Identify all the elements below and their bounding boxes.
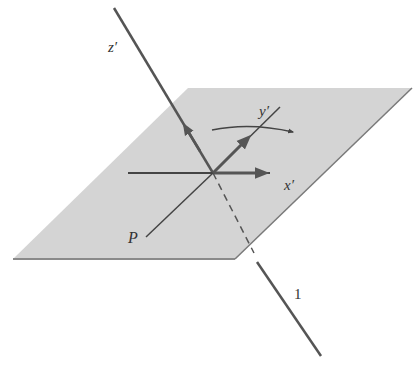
rotation-diagram: z′ y′ x′ P 1	[0, 0, 416, 378]
x-axis-label: x′	[283, 177, 295, 193]
line-1-label: 1	[294, 286, 302, 302]
point-p-label: P	[127, 229, 138, 246]
y-axis-label: y′	[257, 103, 270, 119]
z-axis-label: z′	[107, 39, 118, 55]
line-1	[257, 262, 321, 356]
